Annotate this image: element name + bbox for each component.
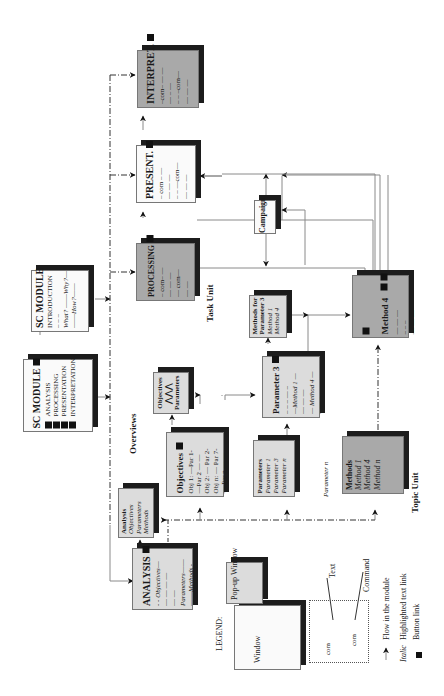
analysis-objectives-link[interactable]: Objectives xyxy=(153,568,161,598)
objectives-window[interactable]: Objectives Obj 1: —Par 1- —Par 2 — — Obj… xyxy=(166,432,224,497)
objective-line[interactable]: Obj 1: —Par 1- xyxy=(187,436,195,493)
objective-line[interactable]: —Par 2 — — xyxy=(195,436,203,493)
legend-flow-label: Flow in the module xyxy=(382,578,391,640)
menu-item-presentation[interactable]: PRESENTATION xyxy=(60,365,68,416)
methods-window[interactable]: Methods Method 1 Method 4 Method n xyxy=(342,436,404,494)
button-link-icon[interactable] xyxy=(147,34,154,41)
button-link-icon[interactable] xyxy=(380,283,387,290)
processing-title: PROCESSING xyxy=(146,245,155,297)
analysis-window[interactable]: ANALYSIS - - Objectives— — — — — — — Par… xyxy=(132,548,193,610)
method4-window[interactable]: Method 4 — — — – – – — — — xyxy=(352,275,409,338)
methods-for-parameter-popup[interactable]: Methods for Parameter 3 Method 1 Method … xyxy=(249,295,287,338)
sc-main-title: SC MODULE xyxy=(31,368,42,428)
interpret-command[interactable]: com xyxy=(158,88,166,100)
processing-command[interactable]: com xyxy=(173,276,181,288)
present-title: PRESENT. xyxy=(144,151,155,199)
overview-objectives-label: Objectives xyxy=(156,376,164,410)
parameter3-title: Parameter 3 xyxy=(271,366,281,414)
processing-window[interactable]: PROCESSING – com– — — — — — com— — — xyxy=(136,243,195,301)
button-link-icon[interactable] xyxy=(61,421,68,428)
objectives-overview-popup[interactable]: Objectives ⋀⋀⋀ Parameters xyxy=(153,372,189,414)
legend-text-sample: com com xyxy=(309,600,369,663)
legend-title: LEGEND: xyxy=(215,617,224,651)
interpret-title: INTERPRET. xyxy=(145,44,156,104)
parameters-title: Parameters xyxy=(256,444,264,493)
present-command[interactable]: com xyxy=(173,169,181,181)
menu-item-processing[interactable]: PROCESSING xyxy=(52,373,60,416)
objective-line[interactable]: — Par n — — xyxy=(220,436,228,493)
parameter-link[interactable]: Parameter 3 xyxy=(272,458,280,493)
method-link[interactable]: Method 4 xyxy=(363,460,372,490)
legend-text-callout: Text xyxy=(328,564,337,578)
legend-window-label: Window xyxy=(253,636,262,663)
campaign-window[interactable]: Campaign xyxy=(254,200,276,234)
button-link-icon[interactable] xyxy=(272,356,279,363)
methods-title: Methods xyxy=(345,440,354,490)
topic-unit-label: Topic Unit xyxy=(410,473,420,513)
sc-intro-subtitle: INTRODUCTION xyxy=(46,274,54,328)
legend-com-label: com xyxy=(350,634,358,646)
sc-intro-title: SC MODULE xyxy=(34,274,46,328)
task-unit-label: Task Unit xyxy=(205,285,215,322)
parameter-link[interactable]: Parameter 1 xyxy=(264,458,272,493)
present-command[interactable]: com xyxy=(157,182,165,194)
interpret-window[interactable]: INTERPRET. –com– — — — – — – – –com— — —… xyxy=(137,50,199,108)
campaign-title: Campaign xyxy=(254,200,271,234)
analysis-parameters-link[interactable]: Parameters xyxy=(178,573,186,606)
what-link[interactable]: What? xyxy=(62,310,70,328)
analysis-title: ANALYSIS xyxy=(140,556,151,606)
button-link-icon[interactable] xyxy=(146,235,153,242)
button-link-icon[interactable] xyxy=(146,141,153,148)
parameters-window[interactable]: Parameters Parameter 1 Parameter 3 Param… xyxy=(253,440,295,497)
connector-lines xyxy=(0,0,444,696)
legend-button-label: Button link xyxy=(412,604,421,640)
button-link-icon[interactable] xyxy=(142,546,149,553)
present-window[interactable]: PRESENT. – com – — — — — – – —com— — — — xyxy=(136,145,196,203)
button-link-icon[interactable] xyxy=(45,421,52,428)
method-link[interactable]: —Method 1 — xyxy=(291,373,299,414)
overviews-label: Overviews xyxy=(128,414,138,455)
legend-command-callout: Command xyxy=(362,559,371,592)
sc-module-main-window[interactable]: SC MODULE ANALYSIS PROCESSING PRESENTATI… xyxy=(23,359,93,432)
analysis-methods-link[interactable]: Methods xyxy=(186,568,194,592)
legend-popup-sample: Pop-up Window xyxy=(226,562,263,604)
how-link[interactable]: How? xyxy=(70,297,78,314)
method-link[interactable]: — Method 4 — xyxy=(308,371,316,414)
legend-italic-symbol: Italic xyxy=(399,645,408,662)
parameter-n-label: Parameter n xyxy=(322,462,330,497)
method4-title: Method 4 xyxy=(379,297,389,334)
parameter-link[interactable]: Parameter n xyxy=(280,458,288,493)
sc-module-intro-window[interactable]: SC MODULE INTRODUCTION – – – What? ——Why… xyxy=(31,270,89,332)
processing-command[interactable]: com xyxy=(157,280,165,292)
analysis-popup-methods-link[interactable]: Methods xyxy=(142,510,150,534)
objectives-title: Objectives xyxy=(175,453,185,494)
button-link-icon[interactable] xyxy=(33,358,40,365)
legend-popup-label: Pop-up Window xyxy=(226,562,241,604)
objective-line[interactable]: Obj n: — Par 7- xyxy=(212,436,220,493)
button-link-icon[interactable] xyxy=(69,421,76,428)
button-link-icon[interactable] xyxy=(176,443,183,450)
why-link[interactable]: Why? xyxy=(62,278,70,294)
legend-com-label: com xyxy=(324,643,332,655)
button-link-icon[interactable] xyxy=(53,421,60,428)
interpret-command[interactable]: com xyxy=(174,78,182,90)
menu-item-analysis[interactable]: ANALYSIS xyxy=(44,382,52,416)
parameter3-window[interactable]: Parameter 3 – – – — – —Method 1 — — — — … xyxy=(262,356,320,418)
method-link[interactable]: Method n xyxy=(373,460,382,490)
legend-button-icon xyxy=(416,652,422,658)
analysis-overview-popup[interactable]: Analysis Objectives Parameters Methods xyxy=(118,488,154,538)
method-link[interactable]: Method 4 xyxy=(273,307,281,334)
button-link-icon[interactable] xyxy=(362,327,369,334)
overview-parameters-label: Parameters xyxy=(173,376,181,410)
objective-line[interactable]: Obj 2: — Par 2- xyxy=(203,436,211,493)
legend-highlighted-label: Highlighted text link xyxy=(399,573,408,640)
button-link-icon[interactable] xyxy=(380,273,387,280)
menu-item-interpretation[interactable]: INTERPRETATION xyxy=(69,358,77,416)
method-link[interactable]: Method 1 xyxy=(354,460,363,490)
legend-window-sample: Window xyxy=(234,605,301,670)
